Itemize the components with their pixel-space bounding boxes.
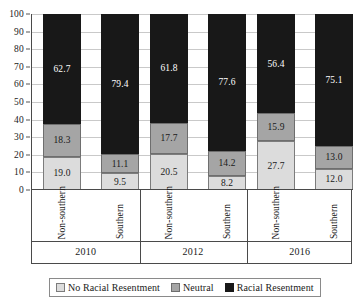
bar-value-label: 62.7 — [53, 64, 70, 74]
y-tick-label: 20 — [14, 150, 24, 159]
bar-segment-no-racial-resentment[interactable]: 9.5 — [101, 173, 139, 190]
stacked-bar[interactable]: 77.614.28.2 — [208, 14, 246, 190]
bar-segment-racial-resentment[interactable]: 62.7 — [43, 14, 81, 124]
bar-segment-no-racial-resentment[interactable]: 27.7 — [257, 141, 295, 190]
bar-segment-racial-resentment[interactable]: 56.4 — [257, 14, 295, 113]
bar-segment-racial-resentment[interactable]: 61.8 — [150, 14, 188, 123]
group-separator — [140, 190, 141, 241]
legend-item[interactable]: Neutral — [171, 282, 214, 293]
y-tick-mark — [26, 66, 30, 67]
chart-legend: No Racial ResentmentNeutralRacial Resent… — [49, 278, 321, 297]
bar-value-label: 11.1 — [112, 159, 129, 169]
legend-item[interactable]: Racial Resentment — [225, 282, 314, 293]
category-label: Non-southern — [57, 186, 67, 239]
stacked-bar[interactable]: 75.113.012.0 — [315, 14, 353, 190]
category-label: Southern — [329, 204, 339, 239]
stacked-bar[interactable]: 62.718.319.0 — [43, 14, 81, 190]
bar-segment-no-racial-resentment[interactable]: 20.5 — [150, 154, 188, 190]
group-label-2010: 2010 — [32, 246, 140, 257]
bar-value-label: 56.4 — [267, 59, 284, 69]
bar-segment-no-racial-resentment[interactable]: 19.0 — [43, 157, 81, 190]
y-tick-mark — [26, 137, 30, 138]
group-axis: 201020122016 — [31, 242, 352, 264]
bar-value-label: 17.7 — [160, 133, 177, 143]
y-tick-mark — [26, 84, 30, 85]
bar-value-label: 12.0 — [325, 174, 342, 184]
bar-segment-no-racial-resentment[interactable]: 12.0 — [315, 169, 353, 190]
plot-area: 62.718.319.079.411.19.561.817.720.577.61… — [31, 14, 352, 190]
bar-value-label: 9.5 — [114, 177, 126, 187]
y-tick-label: 10 — [14, 168, 24, 177]
group-separator — [140, 242, 141, 263]
y-tick-label: 90 — [14, 27, 24, 36]
bar-segment-neutral[interactable]: 14.2 — [208, 151, 246, 176]
legend-swatch-icon — [171, 283, 180, 292]
bar-value-label: 13.0 — [325, 152, 342, 162]
bar-segment-neutral[interactable]: 15.9 — [257, 113, 295, 141]
y-tick-mark — [26, 190, 30, 191]
bar-value-label: 75.1 — [325, 75, 342, 85]
y-tick-label: 80 — [14, 45, 24, 54]
bar-segment-racial-resentment[interactable]: 77.6 — [208, 14, 246, 151]
y-tick-mark — [26, 31, 30, 32]
bar-value-label: 61.8 — [160, 63, 177, 73]
bars-layer: 62.718.319.079.411.19.561.817.720.577.61… — [32, 14, 353, 190]
legend-item[interactable]: No Racial Resentment — [56, 282, 160, 293]
category-label: Non-southern — [164, 186, 174, 239]
bar-value-label: 15.9 — [267, 122, 284, 132]
bar-segment-neutral[interactable]: 18.3 — [43, 124, 81, 156]
stacked-bar[interactable]: 56.415.927.7 — [257, 14, 295, 190]
category-label: Southern — [222, 204, 232, 239]
legend-swatch-icon — [56, 283, 65, 292]
group-separator — [247, 242, 248, 263]
bar-value-label: 77.6 — [218, 77, 235, 87]
y-tick-mark — [26, 14, 30, 15]
bar-segment-neutral[interactable]: 17.7 — [150, 123, 188, 154]
y-tick-mark — [26, 102, 30, 103]
y-tick-label: 0 — [19, 186, 24, 195]
group-separator — [247, 190, 248, 241]
y-tick-mark — [26, 172, 30, 173]
bar-segment-no-racial-resentment[interactable]: 8.2 — [208, 176, 246, 190]
y-tick-mark — [26, 154, 30, 155]
bar-segment-neutral[interactable]: 11.1 — [101, 154, 139, 174]
y-tick-label: 50 — [14, 98, 24, 107]
group-label-2012: 2012 — [140, 246, 247, 257]
bar-value-label: 19.0 — [53, 168, 70, 178]
stacked-bar[interactable]: 79.411.19.5 — [101, 14, 139, 190]
legend-label: Racial Resentment — [237, 282, 314, 293]
y-axis: 1009080706050403020100 — [0, 14, 24, 190]
category-label: Non-southern — [271, 186, 281, 239]
legend-swatch-icon — [225, 283, 234, 292]
category-label: Southern — [115, 204, 125, 239]
bar-segment-racial-resentment[interactable]: 79.4 — [101, 14, 139, 154]
y-tick-label: 70 — [14, 62, 24, 71]
bar-value-label: 14.2 — [218, 158, 235, 168]
y-tick-label: 40 — [14, 115, 24, 124]
bar-value-label: 27.7 — [267, 161, 284, 171]
bar-value-label: 8.2 — [221, 178, 233, 188]
legend-label: No Racial Resentment — [68, 282, 160, 293]
legend-label: Neutral — [183, 282, 214, 293]
stacked-bar-chart: 1009080706050403020100 62.718.319.079.41… — [0, 0, 363, 305]
bar-value-label: 79.4 — [111, 79, 128, 89]
bar-value-label: 20.5 — [160, 167, 177, 177]
y-tick-label: 60 — [14, 80, 24, 89]
y-tick-mark — [26, 119, 30, 120]
category-axis: Non-southernSouthernNon-southernSouthern… — [31, 190, 352, 242]
y-tick-mark — [26, 49, 30, 50]
bar-value-label: 18.3 — [53, 135, 70, 145]
stacked-bar[interactable]: 61.817.720.5 — [150, 14, 188, 190]
y-tick-label: 100 — [9, 10, 24, 19]
group-label-2016: 2016 — [247, 246, 354, 257]
bar-segment-racial-resentment[interactable]: 75.1 — [315, 14, 353, 146]
y-tick-label: 30 — [14, 133, 24, 142]
bar-segment-neutral[interactable]: 13.0 — [315, 146, 353, 169]
